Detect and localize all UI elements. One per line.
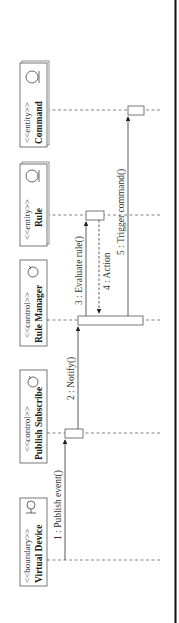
participant-name: Rule	[34, 208, 44, 227]
participant-publish-subscribe: <<control>> Publish Subscribe	[20, 370, 47, 463]
stereotype-label: <<entity>>	[22, 102, 32, 143]
message-label-2: 2 : Notify()	[66, 357, 77, 400]
participant-name: Virtual Device	[34, 525, 44, 583]
message-label-4: 4 : Action	[102, 252, 112, 290]
stereotype-label: <<control>>	[22, 292, 32, 338]
participant-rule-manager: <<control>> Rule Manager	[20, 260, 47, 346]
activation-publish-subscribe	[65, 429, 83, 438]
participant-rule: <<entity>> Rule	[20, 162, 49, 246]
participant-name: Rule Manager	[34, 284, 44, 343]
participant-virtual-device: <<boundary>> Virtual Device	[20, 498, 47, 586]
participant-name: Publish Subscribe	[34, 387, 44, 460]
message-label-3: 3 : Evaluate rule()	[74, 236, 85, 305]
activation-rule	[86, 211, 104, 220]
lifelines	[47, 110, 160, 560]
stereotype-label: <<boundary>>	[22, 529, 32, 583]
sequence-diagram: <<boundary>> Virtual Device <<control>> …	[0, 0, 179, 623]
stereotype-label: <<control>>	[22, 406, 32, 452]
message-label-1: 1 : Publish event()	[53, 470, 64, 540]
stereotype-label: <<entity>>	[22, 199, 32, 240]
activation-command	[128, 106, 144, 115]
activation-rule-manager	[78, 316, 143, 325]
participant-command: <<entity>> Command	[20, 61, 49, 147]
message-label-5: 5 : Trigger command()	[116, 169, 127, 255]
participant-name: Command	[34, 101, 44, 144]
